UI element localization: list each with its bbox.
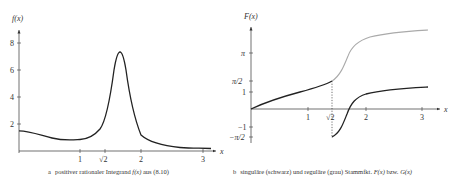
y-tick-label: 2 [10,120,14,129]
F-curve-branch2 [332,87,428,137]
y-tick-label: π [241,49,246,58]
x-axis-label: x [219,147,224,156]
y-tick-label: 8 [10,39,14,48]
x-tick-label: 3 [420,113,424,122]
figure: f(x) x 8 6 4 2 1 √2 2 3 apositiver ratio… [0,0,454,184]
x-tick-label: 2 [364,113,368,122]
x-axis-label: x [443,105,448,114]
f-curve [19,52,211,149]
F-curve-branch1 [251,81,332,109]
y-tick-label: π/2 [232,77,242,86]
x-tick-label: 1 [78,155,82,164]
caption-a: apositiver rationaler Integrand f(x) aus… [48,168,169,176]
y-axis-label: f(x) [12,14,23,23]
x-tick-label: √2 [99,155,107,164]
x-tick-label: 1 [306,113,310,122]
caption-b: bsinguläre (schwarz) und reguläre (grau)… [233,168,412,176]
y-tick-label: −1 [238,123,247,132]
x-tick-label: √2 [326,113,334,122]
y-axis-label: F(x) [243,12,258,21]
y-tick-label: 4 [10,93,14,102]
y-tick-label: 6 [10,66,14,75]
x-tick-label: 2 [139,155,143,164]
chart-a: f(x) x 8 6 4 2 1 √2 2 3 apositiver ratio… [10,14,224,176]
chart-b: F(x) x π π/2 1 −1 −π/2 1 √2 2 3 bsingulä… [229,12,448,176]
y-tick-label: 1 [242,88,246,97]
G-curve-grey [332,30,428,81]
x-tick-label: 3 [201,155,205,164]
y-tick-label: −π/2 [229,133,245,142]
